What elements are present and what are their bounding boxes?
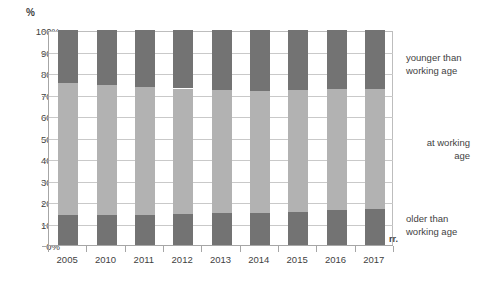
x-axis-tick-mark — [393, 246, 394, 252]
x-axis-tick-label: 2013 — [210, 254, 231, 265]
y-axis-unit-label: % — [26, 7, 35, 18]
legend-working-line2: age — [406, 150, 470, 163]
bar-segment[interactable] — [327, 210, 347, 245]
bar-segment[interactable] — [173, 30, 193, 88]
bar-segment[interactable] — [365, 89, 385, 209]
bar-segment[interactable] — [327, 30, 347, 89]
bar-segment[interactable] — [288, 212, 308, 245]
bar-group[interactable] — [97, 30, 117, 245]
x-axis-tick-mark — [201, 246, 202, 252]
bar-segment[interactable] — [250, 30, 270, 91]
bar-group[interactable] — [327, 30, 347, 245]
legend-older-line2: working age — [406, 226, 478, 239]
x-axis-tick-label: 2015 — [287, 254, 308, 265]
bar-segment[interactable] — [58, 30, 78, 83]
bar-segment[interactable] — [250, 213, 270, 245]
bar-segment[interactable] — [250, 91, 270, 214]
bar-segment[interactable] — [365, 30, 385, 89]
x-axis-tick-label: 2016 — [325, 254, 346, 265]
bar-group[interactable] — [58, 30, 78, 245]
bar-segment[interactable] — [58, 215, 78, 245]
x-axis-tick-mark — [240, 246, 241, 252]
x-axis-tick-label: 2012 — [172, 254, 193, 265]
x-axis-tick-label: 2010 — [95, 254, 116, 265]
bar-group[interactable] — [250, 30, 270, 245]
legend-working-line1: at working — [406, 137, 470, 150]
legend-label-older-than-working-age: older than working age — [406, 213, 478, 238]
bar-segment[interactable] — [212, 90, 232, 214]
x-axis-tick-mark — [163, 246, 164, 252]
bar-segment[interactable] — [58, 83, 78, 215]
bar-segment[interactable] — [327, 89, 347, 210]
bar-segment[interactable] — [212, 30, 232, 90]
x-axis-tick-label: 2014 — [248, 254, 269, 265]
legend-label-at-working-age: at working age — [406, 137, 470, 162]
bar-segment[interactable] — [135, 215, 155, 245]
x-axis-tick-mark — [278, 246, 279, 252]
legend-younger-line1: younger than — [406, 52, 478, 65]
bar-group[interactable] — [365, 30, 385, 245]
bar-segment[interactable] — [97, 30, 117, 85]
legend-younger-line2: working age — [406, 65, 478, 78]
x-axis-tick-mark — [355, 246, 356, 252]
bar-group[interactable] — [212, 30, 232, 245]
bar-segment[interactable] — [173, 214, 193, 245]
bar-segment[interactable] — [288, 90, 308, 212]
bar-group[interactable] — [288, 30, 308, 245]
bar-segment[interactable] — [212, 213, 232, 245]
x-axis-tick-mark — [48, 246, 49, 252]
legend-label-younger-than-working-age: younger than working age — [406, 52, 478, 77]
bar-segment[interactable] — [97, 215, 117, 245]
bar-segment[interactable] — [173, 89, 193, 215]
bar-group[interactable] — [135, 30, 155, 245]
bar-group[interactable] — [173, 30, 193, 245]
x-axis-tick-mark — [86, 246, 87, 252]
bar-segment[interactable] — [288, 30, 308, 90]
bar-segment[interactable] — [135, 87, 155, 214]
x-axis-unit-label: rr. — [389, 234, 398, 244]
x-axis-tick-label: 2017 — [363, 254, 384, 265]
bar-segment[interactable] — [135, 30, 155, 87]
bar-segment[interactable] — [97, 85, 117, 214]
x-axis-tick-mark — [316, 246, 317, 252]
bar-segment[interactable] — [365, 209, 385, 245]
x-axis-tick-mark — [125, 246, 126, 252]
legend-older-line1: older than — [406, 213, 478, 226]
x-axis-tick-label: 2005 — [57, 254, 78, 265]
plot-area — [48, 31, 393, 246]
stacked-bar-chart: % 0%10%20%30%40%50%60%70%80%90%100% 2005… — [0, 0, 479, 282]
x-axis-tick-label: 2011 — [134, 254, 154, 265]
